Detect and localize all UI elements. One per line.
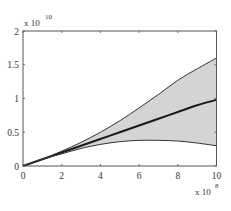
y-tick-label: 1.5 <box>7 60 19 70</box>
y-tick-label: 0 <box>14 162 19 172</box>
y-tick-label: 1 <box>14 94 19 104</box>
y-axis-multiplier-exponent: 10 <box>45 13 53 21</box>
x-tick-label: 6 <box>137 171 142 181</box>
y-tick-label: 0.5 <box>7 128 19 138</box>
chart: 0246810 00.511.52 x 10 10 x 10 8 <box>0 0 231 211</box>
y-axis-multiplier: x 10 <box>24 18 40 28</box>
x-axis-multiplier-exponent: 8 <box>215 182 219 190</box>
x-tick-label: 10 <box>212 171 222 181</box>
x-axis-multiplier: x 10 <box>195 187 211 197</box>
x-tick-label: 0 <box>21 171 26 181</box>
lower-bound-line <box>23 140 217 166</box>
x-tick-label: 2 <box>59 171 64 181</box>
x-tick-label: 8 <box>175 171 180 181</box>
x-tick-label: 4 <box>98 171 103 181</box>
y-tick-label: 2 <box>14 27 19 37</box>
